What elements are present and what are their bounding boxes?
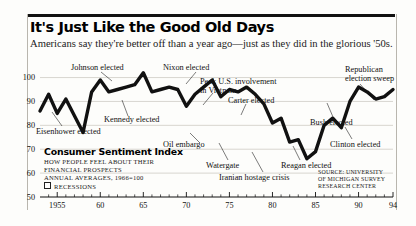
chart-key-line-1: HOW PEOPLE FEEL ABOUT THEIR: [44, 158, 154, 165]
x-axis-label: 1955: [42, 201, 72, 210]
chart-tick-marks: [49, 192, 393, 197]
annotation-republican-line2: election sweep: [345, 74, 394, 83]
x-axis-label: 65: [128, 201, 158, 210]
x-axis-label: 60: [85, 201, 115, 210]
x-axis-label: 80: [257, 201, 287, 210]
y-axis-label: 50: [15, 193, 35, 202]
annotation-nixon: Nixon elected: [163, 63, 209, 72]
infographic-page: It's Just Like the Good Old Days America…: [0, 0, 416, 226]
x-axis-label: 85: [301, 201, 331, 210]
annotation-bush: Bush elected: [310, 118, 353, 127]
chart-key-line-3: ANNUAL AVERAGES, 1966=100: [44, 174, 144, 181]
annotation-eisenhower: Eisenhower elected: [36, 127, 101, 136]
annotation-vietnam-line2: in Vietnam: [200, 86, 236, 95]
annotation-carter: Carter elected: [228, 96, 274, 105]
annotation-clinton: Clinton elected: [330, 140, 380, 149]
x-axis-label: 70: [171, 201, 201, 210]
x-axis-label: 75: [214, 201, 244, 210]
consumer-sentiment-line-chart: [0, 0, 416, 226]
y-axis-label: 70: [15, 145, 35, 154]
y-axis-label: 100: [15, 73, 35, 82]
y-axis-label: 90: [15, 97, 35, 106]
recessions-legend-item: RECESSIONS: [44, 182, 96, 190]
annotation-vietnam-line1: Peak U.S. involvement: [200, 77, 277, 86]
annotation-iran: Iranian hostage crisis: [219, 173, 290, 182]
recessions-legend-label: RECESSIONS: [54, 183, 96, 190]
y-axis-label: 60: [15, 169, 35, 178]
chart-key-title: Consumer Sentiment Index: [44, 146, 183, 157]
x-axis-label: 90: [344, 201, 374, 210]
x-axis-label: 94: [378, 201, 408, 210]
recession-swatch-icon: [44, 182, 51, 189]
annotation-johnson: Johnson elected: [71, 63, 124, 72]
source-attribution: SOURCE: UNIVERSITY OF MICHIGAN SURVEY RE…: [318, 169, 385, 190]
y-axis-label: 80: [15, 121, 35, 130]
chart-key-line-2: FINANCIAL PROSPECTS: [44, 166, 122, 173]
annotation-kennedy: Kennedy elected: [104, 115, 160, 124]
annotation-republican-line1: Republican: [345, 65, 383, 74]
annotation-watergate: Watergate: [206, 161, 239, 170]
